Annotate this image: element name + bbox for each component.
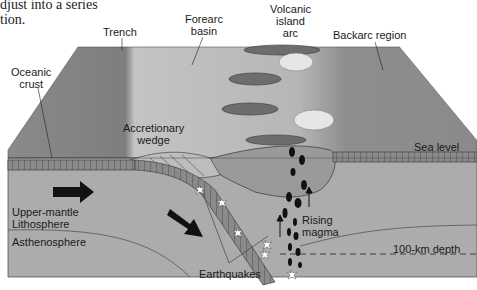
label-volcanic-island-arc: Volcanicislandarc xyxy=(270,3,311,39)
oceanic-crust-left xyxy=(8,160,135,170)
label-rising-magma: Risingmagma xyxy=(302,214,339,238)
label-forearc-basin: Forearcbasin xyxy=(185,13,223,37)
label-earthquakes: Earthquakes xyxy=(199,268,261,280)
label-upper-mantle-lithosphere: Upper-mantleLithosphere xyxy=(12,206,79,230)
label-sea-level: Sea level xyxy=(414,141,459,153)
label-100km-depth: 100-km depth xyxy=(393,243,460,255)
label-asthenosphere: Asthenosphere xyxy=(12,236,86,248)
label-backarc-region: Backarc region xyxy=(333,29,406,41)
label-trench: Trench xyxy=(103,26,137,38)
label-oceanic-crust: Oceaniccrust xyxy=(11,66,51,90)
label-accretionary-wedge: Accretionarywedge xyxy=(123,122,184,146)
sea-surface xyxy=(8,47,477,158)
oceanic-crust-right xyxy=(333,152,477,162)
